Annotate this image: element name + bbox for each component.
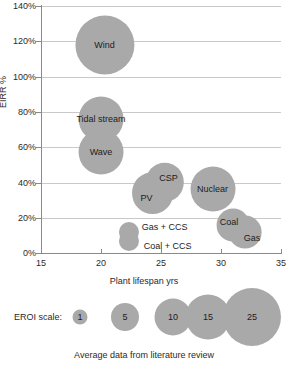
- y-tick-label-80: 80%: [2, 108, 36, 117]
- gridline-140: [41, 6, 281, 7]
- gridline-60: [41, 147, 281, 148]
- x-tick-label-25: 25: [146, 258, 176, 268]
- legend-bubble-label-10: 10: [168, 313, 178, 322]
- y-tick-20: [36, 218, 41, 219]
- x-tick-20: [101, 249, 102, 254]
- y-tick-60: [36, 147, 41, 148]
- x-axis-title: Plant lifespan yrs: [0, 276, 288, 286]
- legend-bubble-label-1: 1: [77, 313, 82, 322]
- bubble-chart: 140% 120% 100% 80% 60% 40% 20% 0% 15 20 …: [0, 0, 288, 366]
- y-tick-40: [36, 183, 41, 184]
- y-tick-label-120: 120%: [2, 37, 36, 46]
- x-tick-label-20: 20: [86, 258, 116, 268]
- y-tick-label-40: 40%: [2, 179, 36, 188]
- x-tick-25: [161, 249, 162, 254]
- bubble-nuclear[interactable]: [190, 167, 235, 212]
- x-tick-30: [221, 249, 222, 254]
- y-axis-title: EIRR %: [0, 76, 8, 108]
- y-tick-100: [36, 77, 41, 78]
- bubble-gas[interactable]: [229, 215, 262, 248]
- y-tick-label-60: 60%: [2, 143, 36, 152]
- x-tick-label-35: 35: [266, 258, 288, 268]
- y-tick-120: [36, 41, 41, 42]
- legend-bubble-label-5: 5: [122, 313, 127, 322]
- x-tick-35: [281, 249, 282, 254]
- y-tick-80: [36, 112, 41, 113]
- y-tick-140: [36, 6, 41, 7]
- bubble-wind[interactable]: [75, 15, 134, 74]
- bubble-wave[interactable]: [79, 130, 124, 175]
- gridline-80: [41, 112, 281, 113]
- legend-bubble-label-25: 25: [247, 313, 257, 322]
- chart-caption: Average data from literature review: [0, 350, 288, 360]
- y-tick-label-0: 0%: [2, 249, 36, 258]
- y-tick-label-140: 140%: [2, 2, 36, 11]
- x-tick-15: [41, 249, 42, 254]
- y-axis-line: [41, 5, 42, 254]
- eroi-scale-legend: EROI scale: 15101525: [0, 292, 288, 348]
- legend-title: EROI scale:: [14, 312, 62, 322]
- legend-bubble-label-15: 15: [203, 313, 213, 322]
- x-tick-label-30: 30: [206, 258, 236, 268]
- y-tick-label-20: 20%: [2, 214, 36, 223]
- bubble-coal-ccs[interactable]: [119, 231, 139, 251]
- x-tick-label-15: 15: [26, 258, 56, 268]
- gridline-100: [41, 77, 281, 78]
